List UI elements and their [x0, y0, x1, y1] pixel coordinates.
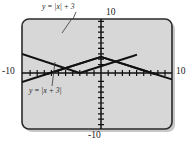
curve-label-abs-x-3: y = |x + 3| [29, 87, 62, 95]
y-axis-min-label: -10 [88, 131, 101, 141]
x-axis-max-label: 10 [176, 67, 186, 77]
curve-label-abs-x-plus-3: y = |x| + 3 [42, 3, 75, 11]
graph-canvas [0, 0, 194, 144]
absolute-value-graph-figure: 10 -10 10 -10 y = |x| + 3 y = |x + 3| [0, 0, 194, 144]
curve-label-abs-x-plus-3-text: y = |x| + 3 [42, 2, 75, 11]
y-axis-max-label: 10 [106, 8, 116, 18]
leader-line-upper-outer [73, 12, 76, 19]
x-axis-min-label: -10 [2, 67, 15, 77]
curve-label-abs-x-3-text: y = |x + 3| [29, 86, 62, 95]
